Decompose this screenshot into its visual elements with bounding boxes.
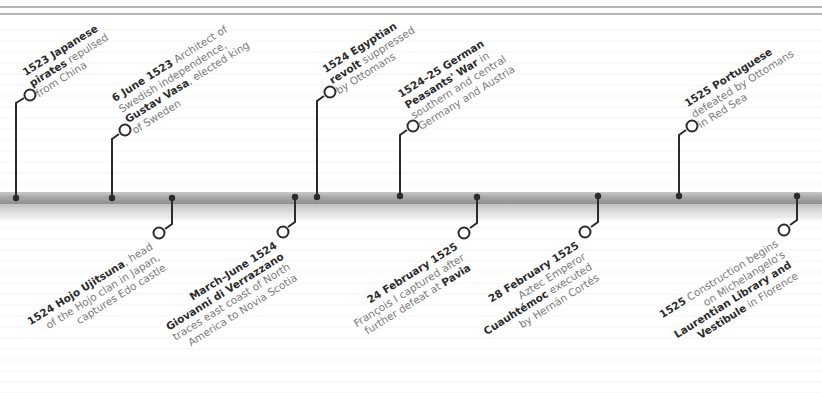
connector-laurentian-library bbox=[779, 193, 801, 236]
connector-hojo-ujitsuna bbox=[154, 195, 176, 239]
connector-pavia bbox=[459, 194, 481, 239]
connector-egyptian-revolt bbox=[314, 87, 336, 201]
connector-gustav-vasa bbox=[109, 125, 131, 202]
connector-portuguese-defeated bbox=[676, 121, 698, 200]
connector-japanese-pirates bbox=[13, 90, 36, 202]
connector-verrazzano bbox=[278, 194, 299, 238]
connector-peasants-war bbox=[397, 121, 419, 200]
connector-cuauhtemoc bbox=[580, 193, 602, 238]
